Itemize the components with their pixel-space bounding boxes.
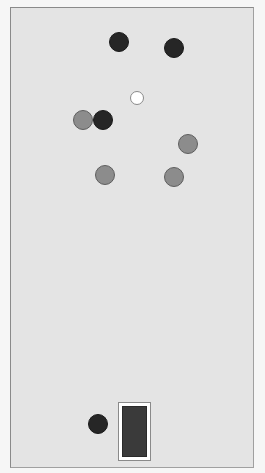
player-paddle[interactable] — [118, 402, 151, 461]
play-field[interactable] — [10, 7, 254, 468]
gray-ball — [95, 165, 115, 185]
white-cue-ball — [130, 91, 144, 105]
game-stage — [0, 0, 265, 473]
paddle-fill — [122, 406, 147, 457]
dark-ball-player-side — [88, 414, 108, 434]
gray-ball — [73, 110, 93, 130]
dark-ball — [109, 32, 129, 52]
gray-ball — [164, 167, 184, 187]
gray-ball — [178, 134, 198, 154]
dark-ball — [164, 38, 184, 58]
dark-ball — [93, 110, 113, 130]
